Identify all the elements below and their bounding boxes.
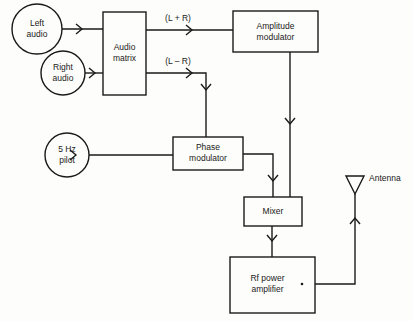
left-audio-label: Left audio	[17, 18, 57, 40]
right-audio-label: Right audio	[43, 62, 83, 84]
antenna-label: Antenna	[369, 173, 401, 184]
amplitude-modulator-label: Amplitude modulator	[233, 21, 318, 43]
antenna-icon	[346, 176, 364, 194]
lplusr-label: (L + R)	[158, 13, 198, 24]
pilot-label: 5 Hz pilot	[47, 144, 87, 166]
rf-amp-label: Rf power amplifier	[230, 273, 305, 295]
phase-modulator-label: Phase modulator	[173, 142, 243, 164]
lminusr-label: (L – R)	[158, 56, 198, 67]
mixer-label: Mixer	[244, 206, 302, 217]
audio-matrix-label: Audio matrix	[103, 42, 146, 64]
